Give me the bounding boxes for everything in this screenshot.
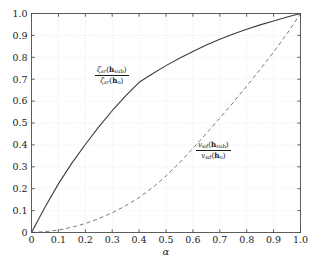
annotation-v-ratio: vsd(hsub) vsd(ho) — [196, 141, 231, 161]
zeta-num-arg-subscript: sub — [114, 68, 124, 74]
zeta-num-subscript: sr — [101, 68, 106, 74]
x-tick-label: 0.3 — [105, 234, 120, 245]
x-tick-label: 0.4 — [132, 234, 147, 245]
axis-title-layer: α — [163, 246, 170, 257]
y-tick-label: 0.8 — [12, 52, 27, 63]
x-tick-label: 0.5 — [158, 234, 173, 245]
tick-label-layer: 00.10.20.30.40.50.60.70.80.91.000.10.20.… — [12, 8, 308, 245]
y-tick-label: 0.3 — [12, 161, 27, 172]
annotation-zeta-ratio: ζsr(hsub) ζsr(ho) — [95, 66, 129, 86]
x-tick-label: 0.7 — [212, 234, 227, 245]
v-num-arg-subscript: sub — [216, 143, 226, 149]
annotation-zeta-numerator: ζsr(hsub) — [95, 66, 129, 76]
y-tick-label: 0.4 — [12, 139, 27, 150]
x-axis-title: α — [163, 246, 170, 257]
y-tick-label: 0.9 — [12, 30, 27, 41]
zeta-den-arg-subscript: o — [117, 79, 120, 85]
chart-figure: 00.10.20.30.40.50.60.70.80.91.000.10.20.… — [0, 0, 313, 262]
x-tick-label: 0 — [28, 234, 34, 245]
x-tick-label: 0.6 — [185, 234, 200, 245]
y-tick-label: 1.0 — [12, 8, 27, 19]
annotation-zeta-denominator: ζsr(ho) — [95, 76, 129, 85]
y-tick-label: 0.7 — [12, 74, 27, 85]
v-num-subscript: sd — [202, 143, 208, 149]
x-tick-label: 1.0 — [293, 234, 308, 245]
y-tick-label: 0.1 — [12, 205, 27, 216]
annotation-v-denominator: vsd(ho) — [196, 151, 231, 160]
zeta-den-subscript: sr — [104, 79, 109, 85]
y-tick-label: 0 — [21, 227, 27, 238]
y-tick-label: 0.5 — [12, 117, 27, 128]
grid-layer — [32, 14, 301, 233]
annotation-v-numerator: vsd(hsub) — [196, 141, 231, 151]
v-den-arg-subscript: o — [219, 154, 222, 160]
plot-canvas: 00.10.20.30.40.50.60.70.80.91.000.10.20.… — [0, 0, 313, 262]
y-tick-label: 0.6 — [12, 95, 27, 106]
x-tick-label: 0.1 — [51, 234, 66, 245]
y-tick-label: 0.2 — [12, 183, 27, 194]
x-tick-label: 0.9 — [266, 234, 281, 245]
v-den-subscript: sd — [205, 154, 211, 160]
x-tick-label: 0.2 — [78, 234, 93, 245]
x-tick-label: 0.8 — [239, 234, 254, 245]
